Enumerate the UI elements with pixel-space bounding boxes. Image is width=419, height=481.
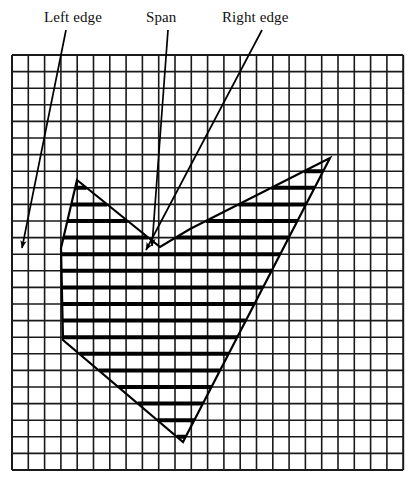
right-edge-leader [146, 30, 262, 250]
label-right-edge: Right edge [222, 10, 288, 25]
scan-conversion-diagram [0, 0, 419, 481]
grid [12, 55, 403, 470]
label-left-edge: Left edge [44, 10, 102, 25]
figure-canvas [0, 0, 419, 481]
label-span: Span [146, 10, 176, 25]
